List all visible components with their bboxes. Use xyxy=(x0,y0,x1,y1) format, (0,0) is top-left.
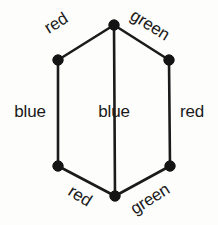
edge-top-left-line xyxy=(58,25,114,60)
edge-right-side-line xyxy=(169,60,170,166)
vertex-upper-right xyxy=(164,55,174,65)
edge-label-blue-left: blue xyxy=(14,103,45,120)
vertex-lower-left xyxy=(53,161,63,171)
edge-label-red-right: red xyxy=(180,103,204,120)
edge-label-blue-center: blue xyxy=(98,103,129,120)
vertex-lower-right xyxy=(165,161,175,171)
hexagon-diagram: red green blue blue red red green xyxy=(0,0,218,225)
vertex-upper-left xyxy=(53,55,63,65)
vertex-bottom xyxy=(110,191,120,201)
vertex-top xyxy=(109,20,119,30)
